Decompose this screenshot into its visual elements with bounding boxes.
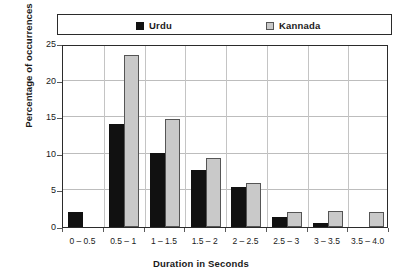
bar-urdu (68, 212, 83, 227)
y-axis-tick-label: 15 (34, 113, 56, 122)
x-axis-tick-label: 2 – 2.5 (225, 236, 266, 246)
bar-group (185, 46, 226, 227)
bar-group (145, 46, 186, 227)
y-axis-tick-label: 10 (34, 150, 56, 159)
group-separator (226, 46, 227, 227)
bar-group (267, 46, 308, 227)
y-axis-tick-label: 0 (34, 223, 56, 232)
x-axis-tick-mark (103, 228, 104, 232)
x-axis-tick-mark (388, 228, 389, 232)
bar-group (348, 46, 389, 227)
x-axis-tick-label: 0 – 0.5 (62, 236, 103, 246)
bar-urdu (191, 170, 206, 227)
x-axis-tick-mark (184, 228, 185, 232)
bar-group (226, 46, 267, 227)
bar-kannada (369, 212, 384, 227)
y-axis-tick-label: 20 (34, 77, 56, 86)
x-axis-tick-mark (347, 228, 348, 232)
x-axis-tick-mark (62, 228, 63, 232)
x-axis-title: Duration in Seconds (0, 258, 402, 269)
x-axis-tick-mark (225, 228, 226, 232)
x-axis-tick-mark (307, 228, 308, 232)
bar-group (104, 46, 145, 227)
bar-group (63, 46, 104, 227)
x-axis-tick-label: 2.5 – 3 (266, 236, 307, 246)
x-axis-tick-label: 1 – 1.5 (144, 236, 185, 246)
x-axis-tick-label: 1.5 – 2 (184, 236, 225, 246)
bar-urdu (231, 187, 246, 227)
bar-kannada (328, 211, 343, 227)
bar-kannada (165, 119, 180, 227)
x-axis-tick-label: 0.5 – 1 (103, 236, 144, 246)
bar-groups (63, 46, 387, 227)
bar-urdu (272, 217, 287, 227)
bar-urdu (313, 223, 328, 227)
x-axis-tick-label: 3.5 – 4.0 (347, 236, 388, 246)
bar-chart: Urdu Kannada Percentage of occurrences 0… (0, 0, 402, 279)
group-separator (185, 46, 186, 227)
x-axis-tick-mark (266, 228, 267, 232)
group-separator (145, 46, 146, 227)
x-axis-tick-label: 3 – 3.5 (307, 236, 348, 246)
bar-urdu (150, 153, 165, 227)
group-separator (104, 46, 105, 227)
group-separator (348, 46, 349, 227)
y-axis-tick-label: 5 (34, 186, 56, 195)
group-separator (308, 46, 309, 227)
bar-kannada (124, 55, 139, 227)
bar-group (308, 46, 349, 227)
bar-urdu (109, 124, 124, 227)
group-separator (267, 46, 268, 227)
bar-kannada (246, 183, 261, 227)
x-axis-tick-mark (144, 228, 145, 232)
bar-kannada (287, 212, 302, 227)
bar-kannada (206, 158, 221, 227)
y-axis-tick-label: 25 (34, 40, 56, 49)
plot-area (62, 45, 388, 228)
